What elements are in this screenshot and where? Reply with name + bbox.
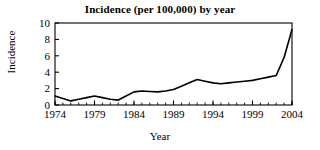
y-tick-label: 10 <box>39 17 51 29</box>
x-tick-label: 1994 <box>202 108 225 120</box>
y-tick-label: 2 <box>45 82 51 94</box>
data-line <box>55 30 292 101</box>
x-tick-label: 1984 <box>123 108 146 120</box>
x-tick-label: 1979 <box>84 108 107 120</box>
data-series-layer <box>55 30 292 101</box>
y-tick-label: 4 <box>45 66 51 78</box>
chart-figure: Incidence (per 100,000) by year Incidenc… <box>0 0 320 150</box>
x-axis-major-ticks <box>55 101 292 106</box>
plot-area: 1974197919841989199419992004 0246810 <box>0 0 320 150</box>
y-axis-major-ticks <box>55 23 59 105</box>
x-tick-label: 1989 <box>163 108 186 120</box>
x-tick-label: 1999 <box>242 108 265 120</box>
y-tick-label: 8 <box>45 33 51 45</box>
x-tick-label: 2004 <box>281 108 304 120</box>
y-axis-tick-labels: 0246810 <box>39 17 51 111</box>
axes-frame <box>55 23 292 105</box>
x-axis-tick-labels: 1974197919841989199419992004 <box>44 108 304 120</box>
y-tick-label: 0 <box>45 99 51 111</box>
y-tick-label: 6 <box>45 50 51 62</box>
